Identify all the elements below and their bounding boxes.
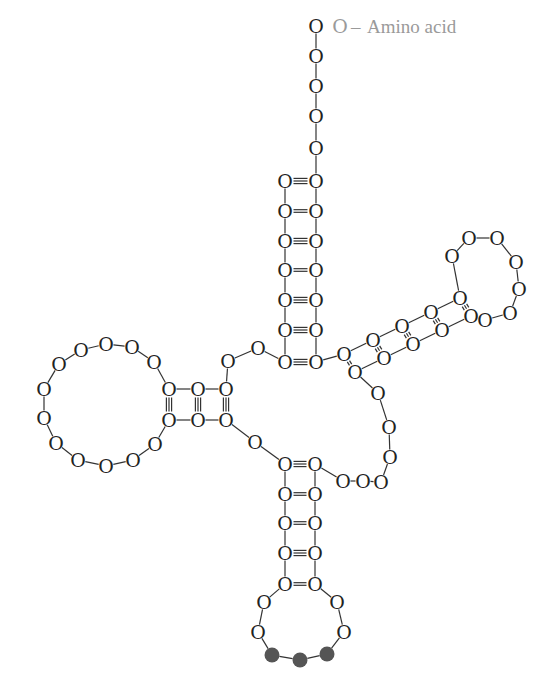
d-loop-nucleotide: O	[98, 333, 114, 355]
terminal-nucleotide: O	[332, 15, 348, 37]
d-stem-nucleotide: O	[190, 409, 206, 431]
acceptor-stem-nucleotide: O	[277, 259, 293, 281]
t-stem-nucleotide: O	[434, 319, 450, 341]
anticodon-stem-nucleotide: O	[307, 453, 323, 475]
acceptor-unpaired-nucleotide: O	[308, 15, 324, 37]
d-loop-nucleotide: O	[70, 449, 86, 471]
backbone-bonds	[44, 34, 518, 659]
variable-loop-nucleotide: O	[382, 446, 398, 468]
acceptor-stem-nucleotide: O	[308, 319, 324, 341]
t-loop-nucleotide: O	[502, 302, 518, 324]
anticodon-nucleotide	[320, 647, 335, 662]
d-loop-nucleotide: O	[98, 455, 114, 477]
anticodon-stem-nucleotide: O	[277, 453, 293, 475]
anticodon-stem-nucleotide: O	[307, 542, 323, 564]
connector-nucleotide: O	[220, 350, 236, 372]
trna-diagram: OOOOOOOOOOOOOOOOOOOOOOOOOOOOOOOOOOOOOOOO…	[0, 0, 554, 699]
acceptor-stem-nucleotide: O	[277, 319, 293, 341]
anticodon-nucleotide	[293, 653, 308, 668]
d-loop-nucleotide: O	[48, 432, 64, 454]
anticodon-stem-nucleotide: O	[307, 573, 323, 595]
acceptor-unpaired-nucleotide: O	[308, 75, 324, 97]
acceptor-stem-nucleotide: O	[277, 230, 293, 252]
d-stem-nucleotide: O	[190, 378, 206, 400]
variable-loop-nucleotide: O	[335, 470, 351, 492]
anticodon-loop-nucleotide: O	[256, 591, 272, 613]
anticodon-stem-nucleotide: O	[307, 483, 323, 505]
d-loop-nucleotide: O	[146, 351, 162, 373]
t-loop-nucleotide: O	[477, 309, 493, 331]
variable-loop-nucleotide: O	[381, 416, 397, 438]
connector-nucleotide: O	[250, 337, 266, 359]
t-loop-nucleotide: O	[511, 278, 527, 300]
d-stem-nucleotide: O	[218, 378, 234, 400]
anticodon-stem-nucleotide: O	[307, 512, 323, 534]
t-stem-nucleotide: O	[347, 361, 363, 383]
t-stem-nucleotide: O	[376, 347, 392, 369]
anticodon-nucleotide	[265, 648, 280, 663]
acceptor-stem-nucleotide: O	[308, 259, 324, 281]
d-stem-nucleotide: O	[161, 409, 177, 431]
t-loop-nucleotide: O	[508, 251, 524, 273]
d-loop-nucleotide: O	[36, 407, 52, 429]
acceptor-stem-nucleotide: O	[308, 289, 324, 311]
d-stem-nucleotide: O	[218, 409, 234, 431]
d-loop-nucleotide: O	[51, 353, 67, 375]
amino-acid-label: Amino acid	[367, 16, 457, 37]
t-loop-nucleotide: O	[489, 227, 505, 249]
t-loop-nucleotide: O	[461, 227, 477, 249]
variable-loop-nucleotide: O	[373, 471, 389, 493]
acceptor-stem-nucleotide: O	[277, 170, 293, 192]
variable-loop-nucleotide: O	[370, 382, 386, 404]
acceptor-unpaired-nucleotide: O	[308, 105, 324, 127]
d-loop-nucleotide: O	[36, 378, 52, 400]
variable-loop-nucleotide: O	[355, 470, 371, 492]
anticodon-stem-nucleotide: O	[277, 512, 293, 534]
anticodon-stem-nucleotide: O	[277, 542, 293, 564]
anticodon-loop-nucleotide: O	[329, 591, 345, 613]
acceptor-stem-nucleotide: O	[277, 289, 293, 311]
nucleotides: OOOOOOOOOOOOOOOOOOOOOOOOOOOOOOOOOOOOOOOO…	[36, 15, 527, 668]
anticodon-loop-nucleotide: O	[250, 621, 266, 643]
acceptor-stem-nucleotide: O	[308, 351, 324, 373]
anticodon-stem-nucleotide: O	[277, 483, 293, 505]
acceptor-stem-nucleotide: O	[308, 200, 324, 222]
d-loop-nucleotide: O	[147, 433, 163, 455]
anticodon-loop-nucleotide: O	[336, 621, 352, 643]
d-loop-nucleotide: O	[124, 336, 140, 358]
anticodon-stem-nucleotide: O	[277, 573, 293, 595]
t-loop-nucleotide: O	[444, 245, 460, 267]
acceptor-stem-nucleotide: O	[308, 230, 324, 252]
acceptor-stem-nucleotide: O	[277, 351, 293, 373]
connector-nucleotide: O	[247, 431, 263, 453]
acceptor-stem-nucleotide: O	[308, 170, 324, 192]
acceptor-unpaired-nucleotide: O	[308, 137, 324, 159]
acceptor-unpaired-nucleotide: O	[308, 45, 324, 67]
d-loop-nucleotide: O	[125, 449, 141, 471]
t-stem-nucleotide: O	[405, 333, 421, 355]
amino-acid-dash: –	[350, 16, 361, 37]
acceptor-stem-nucleotide: O	[277, 200, 293, 222]
d-stem-nucleotide: O	[161, 378, 177, 400]
d-loop-nucleotide: O	[73, 339, 89, 361]
